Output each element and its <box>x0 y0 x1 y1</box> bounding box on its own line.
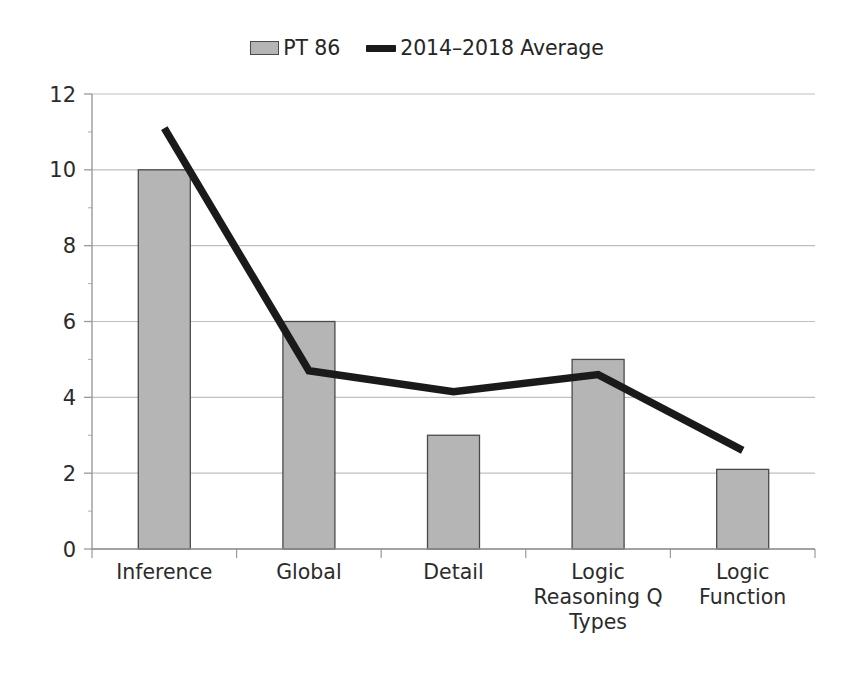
x-axis-label-line: Function <box>670 585 815 610</box>
x-axis-label-inference: Inference <box>92 560 237 660</box>
bar <box>428 435 480 549</box>
y-tick-label: 6 <box>63 310 76 334</box>
x-axis-label-global: Global <box>237 560 382 660</box>
category-tick-marks <box>92 549 815 558</box>
y-tick-label: 2 <box>63 462 76 486</box>
x-axis-label-line: Inference <box>92 560 237 585</box>
bar <box>138 170 190 549</box>
x-axis-label-line: Logic <box>526 560 671 585</box>
x-axis-category-labels: InferenceGlobalDetailLogicReasoning QTyp… <box>92 560 815 660</box>
y-tick-label: 8 <box>63 234 76 258</box>
x-axis-label-line: Types <box>526 610 671 635</box>
y-tick-label: 4 <box>63 386 76 410</box>
x-axis-label-detail: Detail <box>381 560 526 660</box>
major-tick-marks <box>84 94 92 549</box>
y-tick-label: 10 <box>49 158 76 182</box>
y-tick-label: 0 <box>63 538 76 562</box>
x-axis-label-line: Reasoning Q <box>526 585 671 610</box>
y-axis-tick-labels: 121086420 <box>49 83 76 562</box>
chart-container: PT 86 2014–2018 Average 121086420 Infere… <box>0 0 854 692</box>
bar-series-pt-86 <box>138 170 768 549</box>
x-axis-label-logic-reasoning-q-types: LogicReasoning QTypes <box>526 560 671 660</box>
average-line <box>164 128 742 450</box>
bar <box>283 322 335 550</box>
line-series-average <box>164 128 742 450</box>
bar <box>717 469 769 549</box>
x-axis-label-line: Logic <box>670 560 815 585</box>
x-axis-label-logic-function: LogicFunction <box>670 560 815 660</box>
x-axis-label-line: Global <box>237 560 382 585</box>
x-axis-label-line: Detail <box>381 560 526 585</box>
y-tick-label: 12 <box>49 83 76 107</box>
